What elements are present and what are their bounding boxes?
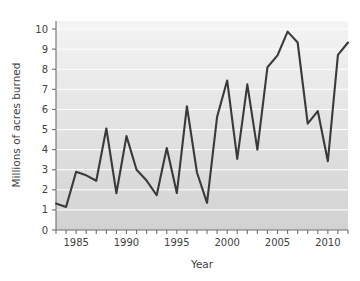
y-tick-label: 8 — [42, 64, 48, 75]
x-tick-label: 1985 — [63, 237, 88, 248]
x-tick-label: 1995 — [164, 237, 189, 248]
y-tick-label: 2 — [42, 184, 48, 195]
y-tick-label: 0 — [42, 225, 48, 236]
y-tick-label: 5 — [42, 124, 48, 135]
x-tick-label: 2010 — [315, 237, 340, 248]
x-tick-label: 2005 — [265, 237, 290, 248]
y-tick-label: 3 — [42, 164, 48, 175]
y-tick-label: 9 — [42, 44, 48, 55]
chart-figure: 012345678910 198519901995200020052010 Ye… — [0, 0, 360, 281]
x-tick-label: 1990 — [114, 237, 139, 248]
y-axis-title: Millions of acres burned — [10, 63, 22, 188]
line-chart: 012345678910 198519901995200020052010 Ye… — [0, 0, 360, 281]
plot-area-background — [56, 21, 348, 230]
y-tick-label: 4 — [42, 144, 48, 155]
y-tick-label: 10 — [35, 24, 48, 35]
y-tick-label: 1 — [42, 204, 48, 215]
y-tick-label: 6 — [42, 104, 48, 115]
x-tick-label: 2000 — [214, 237, 239, 248]
y-tick-label: 7 — [42, 84, 48, 95]
x-axis-title: Year — [190, 258, 214, 270]
